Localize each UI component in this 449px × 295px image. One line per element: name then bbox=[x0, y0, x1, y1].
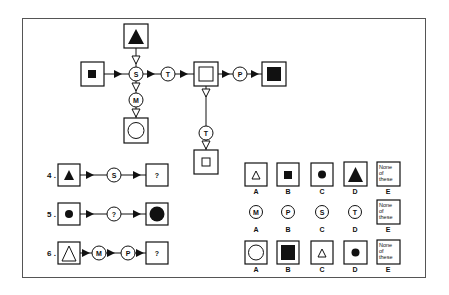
option-2A[interactable]: M bbox=[250, 206, 263, 219]
option-letter: B bbox=[285, 188, 290, 195]
svg-text:M: M bbox=[253, 209, 259, 216]
question-number: 4 . bbox=[47, 171, 56, 180]
option-letter: A bbox=[253, 266, 258, 273]
option-2E[interactable]: None of these bbox=[377, 200, 400, 224]
option-2B[interactable]: P bbox=[282, 206, 295, 219]
key-box-large-filled-square bbox=[262, 62, 286, 86]
option-letter: D bbox=[352, 188, 357, 195]
option-2C[interactable]: S bbox=[316, 206, 329, 219]
operator-T-circle: T bbox=[161, 67, 175, 81]
option-letter: A bbox=[253, 226, 258, 233]
option-letter: E bbox=[386, 226, 391, 233]
option-3E[interactable]: None of these bbox=[377, 240, 400, 264]
svg-text:these: these bbox=[379, 176, 392, 182]
option-letter: C bbox=[319, 226, 324, 233]
question-number: 5 . bbox=[47, 210, 56, 219]
operator-P-label: P bbox=[238, 71, 243, 78]
key-box-large-hollow-square bbox=[194, 62, 218, 86]
svg-text:S: S bbox=[320, 209, 325, 216]
svg-text:P: P bbox=[286, 209, 291, 216]
key-box-small-hollow-square bbox=[194, 150, 218, 174]
option-1B[interactable] bbox=[277, 163, 299, 186]
answer-row-1: A B C D None of these E bbox=[245, 162, 400, 195]
question-number: 6 . bbox=[47, 249, 56, 258]
operator-S-label: S bbox=[134, 71, 139, 78]
svg-text:these: these bbox=[379, 254, 392, 260]
option-3C[interactable] bbox=[311, 241, 333, 264]
option-letter: B bbox=[285, 266, 290, 273]
option-letter: D bbox=[352, 266, 357, 273]
unknown-mark: ? bbox=[155, 172, 159, 179]
option-letter: C bbox=[319, 266, 324, 273]
option-1C[interactable] bbox=[311, 163, 333, 186]
option-3B[interactable] bbox=[277, 241, 299, 264]
answer-row-3: A B C D None of these E bbox=[245, 240, 400, 273]
option-3A[interactable] bbox=[245, 241, 267, 264]
operator-T-label: T bbox=[204, 130, 209, 137]
option-1A[interactable] bbox=[245, 163, 267, 186]
operator-T-circle-vertical: T bbox=[199, 126, 213, 140]
operator-P-circle: P bbox=[233, 67, 247, 81]
svg-text:T: T bbox=[353, 209, 358, 216]
key-box-small-filled-square bbox=[81, 62, 104, 86]
operator-T-label: T bbox=[166, 71, 171, 78]
operator-M-circle: M bbox=[129, 93, 143, 107]
answer-row-2: M A P B S C T D None of these E bbox=[250, 200, 401, 233]
question-4: 4 . S ? bbox=[47, 164, 168, 186]
unknown-operator-label: ? bbox=[112, 211, 116, 218]
unknown-mark: ? bbox=[155, 250, 159, 257]
question-5: 5 . ? bbox=[47, 203, 168, 225]
option-1E[interactable]: None of these bbox=[377, 162, 400, 186]
option-3D[interactable] bbox=[344, 241, 367, 264]
option-letter: E bbox=[386, 188, 391, 195]
operator-label: S bbox=[112, 172, 117, 179]
key-box-large-filled-triangle bbox=[124, 24, 148, 48]
puzzle-diagram: S T P M T 4 . bbox=[0, 0, 449, 295]
option-letter: A bbox=[253, 188, 258, 195]
operator-label: P bbox=[126, 250, 131, 257]
option-letter: C bbox=[319, 188, 324, 195]
option-1D[interactable] bbox=[344, 162, 367, 186]
option-letter: E bbox=[386, 266, 391, 273]
operator-label: M bbox=[96, 250, 102, 257]
operator-M-label: M bbox=[133, 97, 139, 104]
operator-S-circle: S bbox=[129, 67, 143, 81]
key-box-large-hollow-circle bbox=[124, 118, 148, 143]
svg-text:these: these bbox=[379, 214, 392, 220]
option-2D[interactable]: T bbox=[349, 206, 362, 219]
option-letter: B bbox=[285, 226, 290, 233]
question-6: 6 . M P ? bbox=[47, 242, 168, 264]
option-letter: D bbox=[352, 226, 357, 233]
